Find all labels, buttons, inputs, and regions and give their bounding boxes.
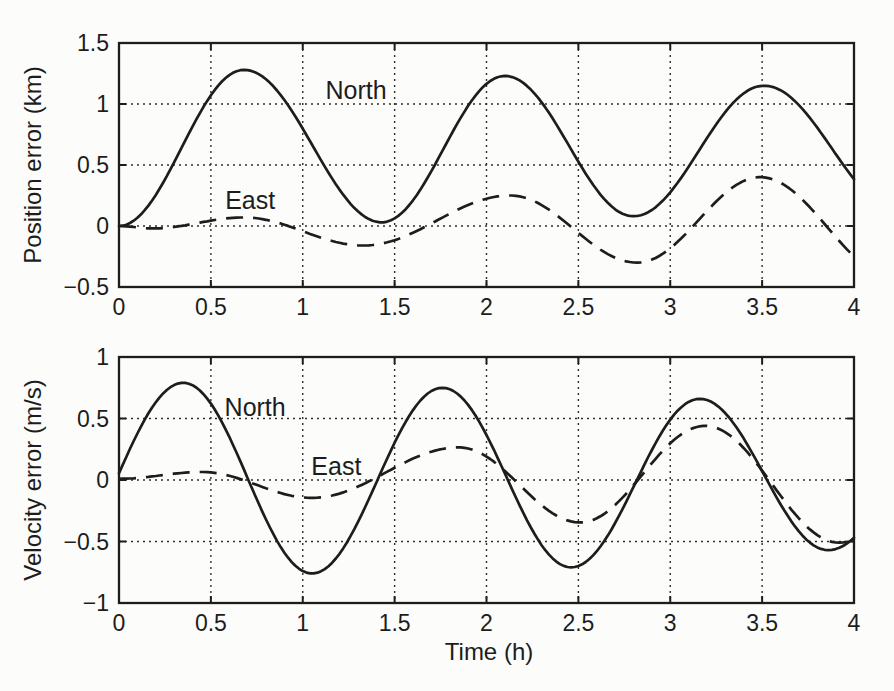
y-tick-label: −1 bbox=[83, 592, 109, 615]
north-series-line bbox=[119, 383, 854, 574]
y-tick-label: −0.5 bbox=[64, 276, 109, 299]
position-error-plot-canvas bbox=[113, 37, 860, 293]
x-tick-label: 2 bbox=[480, 612, 493, 635]
x-tick-label: 1.5 bbox=[379, 296, 411, 319]
x-tick-label: 0 bbox=[113, 612, 126, 635]
series-label-east: East bbox=[311, 453, 361, 478]
y-tick-label: 0 bbox=[96, 215, 109, 238]
velocity-error-plot-canvas bbox=[113, 351, 860, 609]
y-tick-label: 0.5 bbox=[77, 407, 109, 430]
x-tick-label: 4 bbox=[848, 612, 861, 635]
position-error-plot: 00.511.522.533.54−0.500.511.5NorthEast bbox=[0, 0, 894, 691]
x-tick-label: 1 bbox=[296, 296, 309, 319]
y-tick-label: −0.5 bbox=[64, 530, 109, 553]
x-tick-label: 0.5 bbox=[195, 612, 227, 635]
velocity-error-axis-label: Velocity error (m/s) bbox=[21, 379, 45, 580]
y-tick-label: 1 bbox=[96, 93, 109, 116]
east-series-line bbox=[119, 426, 854, 543]
x-tick-label: 2.5 bbox=[562, 296, 594, 319]
x-tick-label: 4 bbox=[848, 296, 861, 319]
velocity-error-plot: 00.511.522.533.54−1−0.500.51NorthEast bbox=[0, 0, 894, 691]
axes-box bbox=[119, 43, 854, 287]
x-tick-label: 0 bbox=[113, 296, 126, 319]
x-tick-label: 3 bbox=[664, 296, 677, 319]
x-tick-label: 1.5 bbox=[379, 612, 411, 635]
ins-error-figure: 00.511.522.533.54−0.500.511.5NorthEast 0… bbox=[0, 0, 894, 691]
series-label-north: North bbox=[225, 395, 286, 420]
north-series-line bbox=[119, 70, 854, 226]
y-tick-label: 0 bbox=[96, 469, 109, 492]
position-error-axis-label: Position error (km) bbox=[21, 66, 45, 263]
x-tick-label: 0.5 bbox=[195, 296, 227, 319]
y-tick-label: 1.5 bbox=[77, 32, 109, 55]
x-tick-label: 3.5 bbox=[746, 612, 778, 635]
x-tick-label: 3 bbox=[664, 612, 677, 635]
series-label-east: East bbox=[225, 188, 275, 213]
east-series-line bbox=[119, 177, 854, 262]
x-tick-label: 2 bbox=[480, 296, 493, 319]
x-tick-label: 1 bbox=[296, 612, 309, 635]
time-axis-label: Time (h) bbox=[445, 640, 533, 664]
x-tick-label: 3.5 bbox=[746, 296, 778, 319]
series-label-north: North bbox=[325, 77, 386, 102]
y-tick-label: 0.5 bbox=[77, 154, 109, 177]
y-tick-label: 1 bbox=[96, 346, 109, 369]
x-tick-label: 2.5 bbox=[562, 612, 594, 635]
axes-box bbox=[119, 357, 854, 603]
